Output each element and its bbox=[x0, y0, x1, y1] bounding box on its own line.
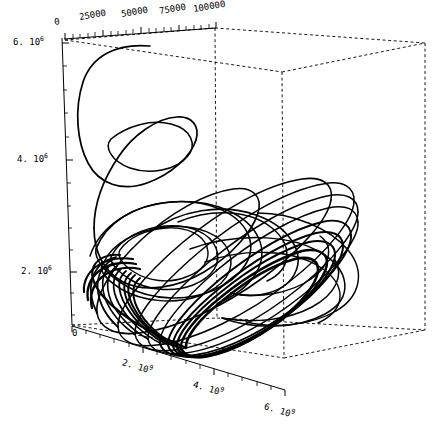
vertical-axis-minor-ticks bbox=[63, 66, 75, 315]
vertical-tick-exponent-2e6: 6 bbox=[48, 264, 52, 272]
vertical-axis-line bbox=[62, 38, 72, 325]
vertical-tick-label-2e6: 2. 106 bbox=[21, 267, 52, 276]
vertical-tick-exponent-4e6: 6 bbox=[44, 152, 48, 160]
bounding-box-wireframe bbox=[65, 28, 425, 358]
box-edge-top-mid-right bbox=[282, 43, 425, 72]
vertical-axis-ticks bbox=[62, 43, 77, 272]
vertical-tick-label-6e6: 6. 106 bbox=[13, 38, 44, 47]
vertical-tick-mantissa-6e6: 6. 10 bbox=[13, 37, 40, 47]
vertical-tick-mantissa-2e6: 2. 10 bbox=[21, 266, 48, 276]
depth-axis-line bbox=[64, 28, 216, 39]
vertical-tick-label-4e6: 4. 106 bbox=[17, 155, 48, 164]
trajectory-curve bbox=[78, 46, 359, 358]
box-edge-bottom-front-right bbox=[284, 330, 425, 358]
horizontal-axis-line bbox=[72, 326, 285, 390]
horizontal-tick-label-0: 0 bbox=[72, 329, 77, 338]
vertical-tick-mantissa-4e6: 4. 10 bbox=[17, 154, 44, 164]
plot-3d-figure: 0 25000 50000 75000 100000 6. 106 4. 106… bbox=[0, 0, 446, 427]
plot-canvas bbox=[0, 0, 446, 427]
vertical-tick-exponent-6e6: 6 bbox=[40, 35, 44, 43]
box-edge-vertical-back-left bbox=[215, 28, 217, 318]
box-edge-top-back-right bbox=[215, 28, 425, 43]
box-edge-top-left-mid bbox=[65, 40, 282, 72]
